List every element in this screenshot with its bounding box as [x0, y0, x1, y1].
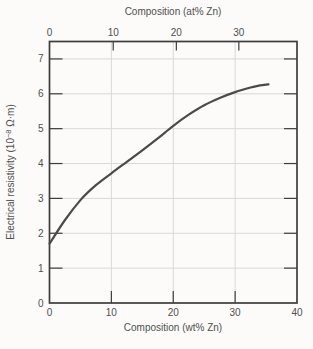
top-tick-label: 30 — [233, 27, 245, 38]
curve-layer — [50, 84, 269, 243]
resistivity-chart: 012345670102030400102030 Composition (at… — [0, 0, 313, 349]
y-tick-label: 0 — [38, 298, 44, 309]
bottom-tick-label: 40 — [291, 307, 303, 318]
y-axis-title: Electrical resistivity (10−8 Ω·m) — [4, 104, 17, 240]
y-tick-label: 1 — [38, 263, 44, 274]
y-tick-label: 7 — [38, 53, 44, 64]
resistivity-curve — [50, 84, 269, 243]
grid-layer — [50, 42, 298, 304]
y-tick-label: 4 — [38, 158, 44, 169]
top-tick-label: 10 — [108, 27, 120, 38]
bottom-tick-label: 30 — [230, 307, 242, 318]
top-tick-label: 20 — [171, 27, 183, 38]
label-layer: 012345670102030400102030 — [38, 27, 303, 319]
bottom-tick-label: 0 — [47, 307, 53, 318]
y-tick-label: 3 — [38, 193, 44, 204]
y-tick-label: 2 — [38, 228, 44, 239]
bottom-tick-label: 20 — [168, 307, 180, 318]
bottom-axis-title: Composition (wt% Zn) — [124, 322, 222, 333]
top-axis-title: Composition (at% Zn) — [125, 6, 222, 17]
y-tick-label: 6 — [38, 88, 44, 99]
y-tick-label: 5 — [38, 123, 44, 134]
bottom-tick-label: 10 — [106, 307, 118, 318]
resistivity-figure: 012345670102030400102030 Composition (at… — [0, 0, 313, 349]
top-tick-label: 0 — [47, 27, 53, 38]
